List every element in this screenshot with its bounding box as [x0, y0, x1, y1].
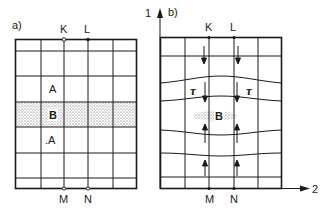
- panel-b: b) 1 2 K L M N: [145, 6, 318, 205]
- label-l-b: L: [230, 21, 236, 33]
- shear-stress-left: τ: [190, 83, 197, 98]
- compression-arrows-upper: [202, 46, 241, 102]
- label-n-b: N: [230, 193, 238, 205]
- label-k-b: K: [205, 21, 213, 33]
- panel-b-label: b): [168, 6, 178, 18]
- arrow-down-icon: [236, 58, 241, 64]
- arrow-up-icon: [203, 124, 208, 130]
- panel-a-label: a): [12, 19, 22, 31]
- arrow-up-icon: [203, 160, 208, 166]
- arrow-up-icon: [235, 160, 240, 166]
- label-k-a: K: [60, 23, 68, 35]
- point-l-b: [232, 36, 235, 39]
- region-a-upper: A: [49, 83, 57, 95]
- region-b-b: B: [215, 110, 223, 122]
- point-n-b: [232, 187, 235, 190]
- label-n-a: N: [84, 193, 92, 205]
- axis-2-label: 2: [312, 183, 318, 195]
- axis-1-arrow-icon: [157, 8, 163, 18]
- point-n-a: [86, 187, 89, 190]
- arrow-up-icon: [235, 124, 240, 130]
- shaded-band-b: [16, 102, 136, 127]
- point-m-b: [207, 187, 210, 190]
- label-l-a: L: [84, 23, 90, 35]
- point-k-b: [207, 36, 210, 39]
- axis-2-arrow-icon: [300, 186, 310, 192]
- region-b-a: B: [49, 109, 57, 121]
- point-k-a: [62, 38, 66, 42]
- label-m-b: M: [205, 193, 214, 205]
- point-l-a: [86, 38, 90, 42]
- shear-stress-right: τ: [246, 83, 253, 98]
- diagram-canvas: a) K L M N A B .A b): [0, 0, 324, 211]
- region-a-lower: .A: [45, 134, 56, 146]
- arrow-down-icon: [202, 58, 207, 64]
- axis-1-label: 1: [145, 7, 151, 19]
- arrow-down-icon: [203, 96, 208, 102]
- label-m-a: M: [59, 193, 68, 205]
- point-m-a: [62, 187, 65, 190]
- arrow-down-icon: [235, 96, 240, 102]
- panel-a: a) K L M N A B .A: [12, 19, 137, 205]
